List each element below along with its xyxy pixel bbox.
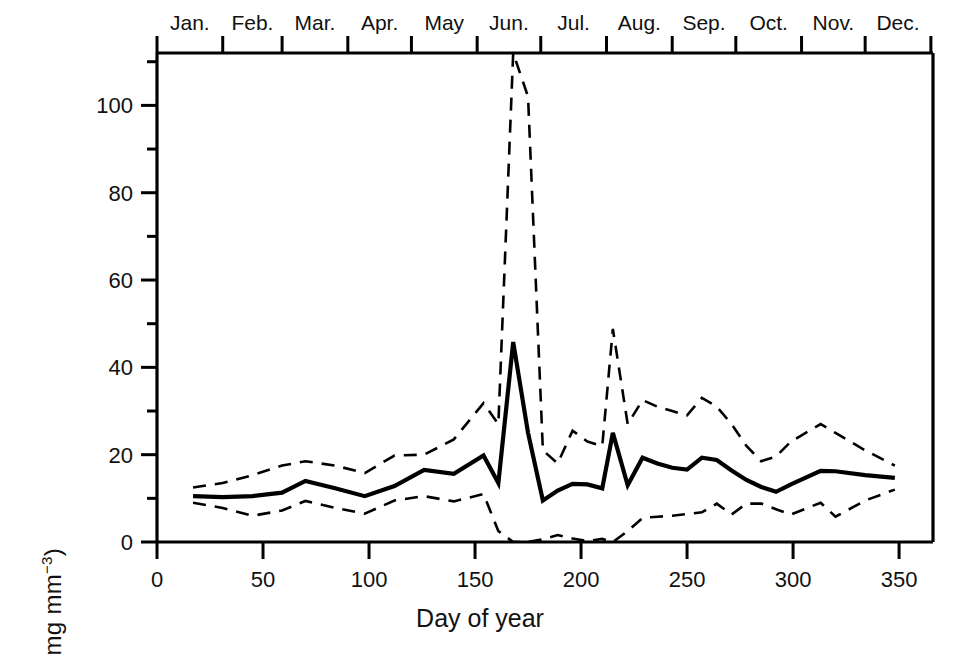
x-tick-label: 300 xyxy=(775,567,812,592)
plot-frame xyxy=(157,53,933,542)
x-tick-label: 0 xyxy=(151,567,163,592)
y-axis-title-wrapper: Chlorophyll / Cell volume (mg mm−3) xyxy=(0,0,60,560)
y-tick-label: 40 xyxy=(109,355,133,380)
x-tick-label: 350 xyxy=(881,567,918,592)
x-tick-label: 250 xyxy=(669,567,706,592)
axis-ticks xyxy=(141,36,931,559)
month-label: Jun. xyxy=(489,11,529,34)
data-series xyxy=(193,53,895,542)
x-tick-label: 150 xyxy=(457,567,494,592)
month-label: Dec. xyxy=(876,11,919,34)
y-tick-label: 80 xyxy=(109,181,133,206)
y-axis-title-exponent: −3 xyxy=(38,556,55,574)
y-tick-label: 0 xyxy=(121,530,133,555)
month-label: Oct. xyxy=(749,11,788,34)
month-label: Mar. xyxy=(295,11,336,34)
y-tick-label: 100 xyxy=(96,93,133,118)
y-tick-label: 20 xyxy=(109,443,133,468)
x-tick-label: 50 xyxy=(251,567,275,592)
x-axis-title: Day of year xyxy=(416,604,544,632)
series-line-mean xyxy=(193,342,895,500)
month-label: Feb. xyxy=(231,11,273,34)
y-tick-label: 60 xyxy=(109,268,133,293)
chart-figure: 020406080100050100150200250300350Jan.Feb… xyxy=(0,0,960,656)
axis-labels: 020406080100050100150200250300350Jan.Feb… xyxy=(96,11,919,592)
y-axis-title: Chlorophyll / Cell volume (mg mm−3) xyxy=(38,548,67,656)
month-label: Jul. xyxy=(557,11,590,34)
month-label: Jan. xyxy=(170,11,210,34)
series-line-upper-bound xyxy=(193,53,895,487)
chart-canvas: 020406080100050100150200250300350Jan.Feb… xyxy=(0,0,960,656)
x-tick-label: 100 xyxy=(351,567,388,592)
month-label: Nov. xyxy=(813,11,855,34)
x-tick-label: 200 xyxy=(563,567,600,592)
month-label: Apr. xyxy=(361,11,398,34)
month-label: Aug. xyxy=(618,11,661,34)
month-label: Sep. xyxy=(682,11,725,34)
month-label: May xyxy=(424,11,464,34)
